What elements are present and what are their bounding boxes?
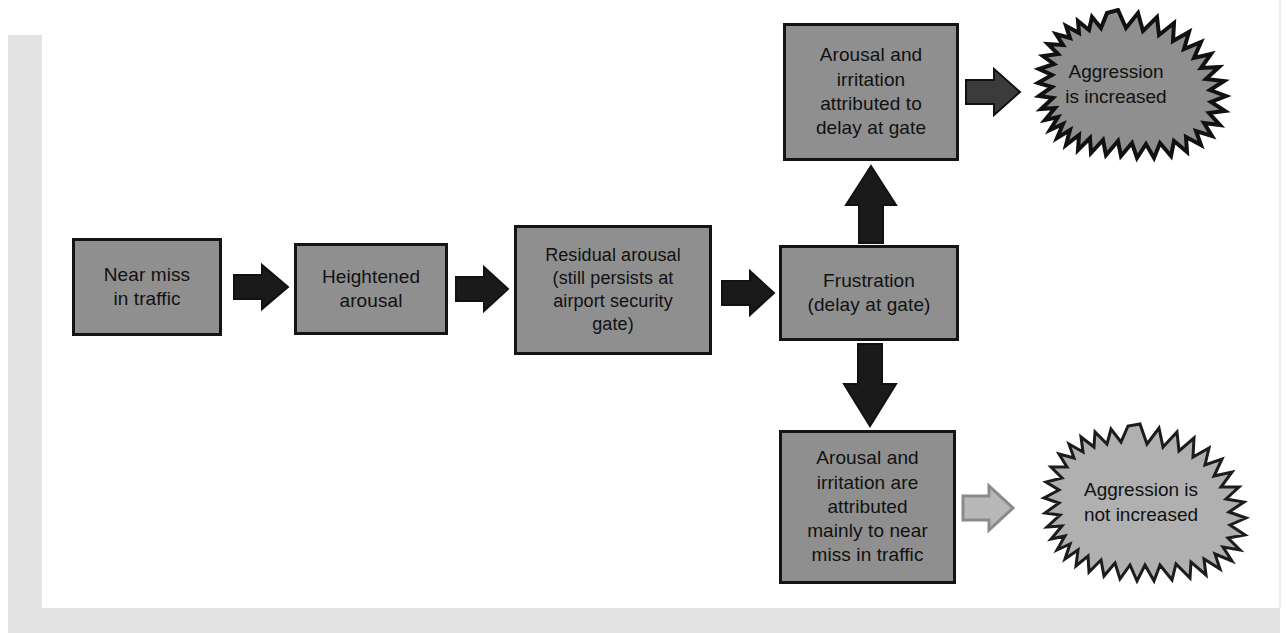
arrow-residual-to-frustration: [722, 271, 774, 315]
node-near-miss-in-traffic: Near miss in traffic: [72, 238, 222, 336]
node-residual-arousal-label: Residual arousal (still persists at airp…: [523, 244, 703, 336]
node-attributed-to-near-miss-label: Arousal and irritation are attributed ma…: [788, 446, 947, 568]
arrow-near-miss-to-heightened: [234, 265, 288, 309]
diagram-canvas: Near miss in traffic Heightened arousal …: [0, 0, 1288, 633]
node-attributed-to-delay-at-gate-label: Arousal and irritation attributed to del…: [792, 43, 950, 140]
arrow-frustration-to-attr-near-miss: [844, 344, 896, 426]
node-frustration-label: Frustration (delay at gate): [788, 269, 950, 318]
node-near-miss-in-traffic-label: Near miss in traffic: [81, 263, 213, 312]
node-attributed-to-delay-at-gate: Arousal and irritation attributed to del…: [783, 23, 959, 161]
node-frustration: Frustration (delay at gate): [779, 245, 959, 341]
node-heightened-arousal-label: Heightened arousal: [303, 265, 439, 314]
arrow-frustration-to-attr-gate: [846, 166, 896, 243]
page-edge-band-left: [8, 35, 42, 608]
page-edge-band-bottom: [8, 608, 1280, 633]
node-heightened-arousal: Heightened arousal: [294, 243, 448, 335]
outcome-aggression-not-increased-label: Aggression is not increased: [1028, 478, 1254, 527]
arrow-heightened-to-residual: [456, 267, 508, 311]
node-residual-arousal: Residual arousal (still persists at airp…: [514, 225, 712, 355]
outcome-aggression-increased-label: Aggression is increased: [1000, 60, 1232, 109]
node-attributed-to-near-miss: Arousal and irritation are attributed ma…: [779, 430, 956, 584]
